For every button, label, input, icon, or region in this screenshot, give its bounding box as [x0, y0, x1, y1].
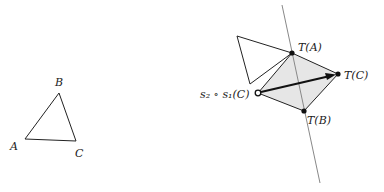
point-tb [301, 108, 306, 113]
triangle-abc [25, 93, 76, 141]
point-ta [289, 50, 294, 55]
label-c: C [75, 147, 84, 160]
label-tb: T(B) [307, 114, 331, 127]
diagram-canvas: B A C T(A) T(C) T(B) s₂ ∘ s₁(C) [0, 0, 384, 192]
label-s2s1c: s₂ ∘ s₁(C) [200, 88, 250, 101]
label-ta: T(A) [298, 41, 322, 54]
label-a: A [9, 140, 18, 153]
point-tc [335, 71, 340, 76]
label-b: B [54, 76, 63, 89]
point-s2s1c [255, 90, 261, 96]
label-tc: T(C) [344, 69, 368, 82]
